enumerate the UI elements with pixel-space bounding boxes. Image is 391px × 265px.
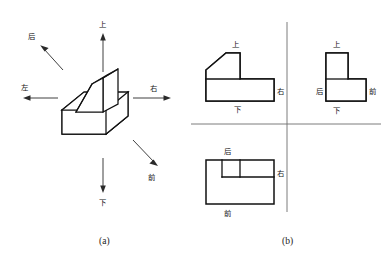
front-view-label-right: 右 xyxy=(277,87,284,96)
arrow-down xyxy=(100,158,106,193)
front-view-label-bottom: 下 xyxy=(234,105,241,114)
top-view-label-top: 后 xyxy=(224,147,232,156)
arrow-up xyxy=(100,33,106,72)
arrow-label-up: 上 xyxy=(99,20,107,29)
arrow-label-down: 下 xyxy=(99,198,106,207)
isometric-solid xyxy=(62,69,128,134)
arrow-label-right: 右 xyxy=(150,84,157,93)
arrow-back xyxy=(40,45,63,70)
panel-a-caption: (a) xyxy=(99,236,110,247)
side-view-label-bottom: 下 xyxy=(333,106,340,115)
panel-b-caption: (b) xyxy=(282,236,293,247)
arrow-left xyxy=(23,95,58,101)
arrow-label-front: 前 xyxy=(148,173,155,182)
top-view xyxy=(206,160,274,204)
arrow-right xyxy=(133,95,171,101)
top-view-label-right: 右 xyxy=(277,169,284,178)
side-view xyxy=(326,53,366,101)
arrow-label-left: 左 xyxy=(21,83,28,92)
panel-a-group: 上 下 左 右 后 xyxy=(21,20,171,247)
side-view-label-top: 上 xyxy=(333,40,341,49)
front-view-label-top: 上 xyxy=(232,40,240,49)
side-view-label-right: 前 xyxy=(369,87,376,96)
figure-canvas: 上 下 左 右 后 xyxy=(0,0,391,265)
panel-b-group: 上 右 下 上 后 前 下 后 右 前 xyxy=(191,22,381,247)
engineering-drawing-figure: 上 下 左 右 后 xyxy=(0,0,391,265)
arrow-label-back: 后 xyxy=(28,32,36,41)
side-view-label-left: 后 xyxy=(316,87,324,96)
top-view-label-bottom: 前 xyxy=(224,209,231,218)
arrow-front xyxy=(133,140,158,166)
front-view xyxy=(206,53,274,101)
